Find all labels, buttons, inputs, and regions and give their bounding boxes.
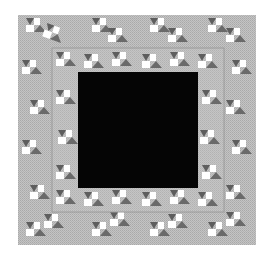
quilt-pattern-figure bbox=[0, 0, 273, 259]
pattern-canvas bbox=[0, 0, 273, 259]
center-black-square bbox=[78, 72, 198, 188]
